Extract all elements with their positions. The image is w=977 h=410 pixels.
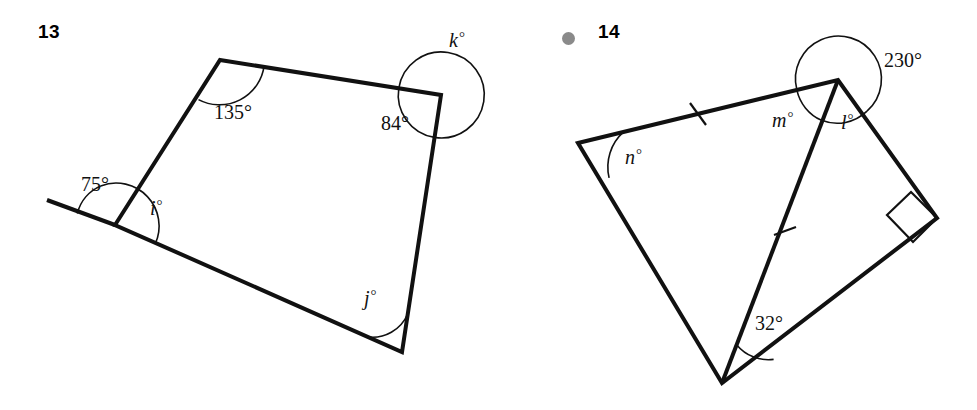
angle-label-84: 84° (381, 113, 409, 133)
angle-label-j: j° (364, 288, 377, 308)
degree-symbol-j: ° (370, 287, 377, 303)
quadrilateral-outline (578, 80, 937, 383)
angle-arc-n (608, 132, 624, 178)
angle-arc-230-reflex (795, 36, 881, 111)
angle-label-k-variable: k (449, 29, 458, 51)
angle-arc-135 (199, 66, 265, 105)
angle-label-75: 75° (81, 174, 109, 194)
right-angle-marker (887, 192, 937, 242)
figure-14: 14 230° 32° n° (500, 0, 977, 410)
worksheet-page: 13 135° 84° 75° k° j° i° (0, 0, 977, 410)
angle-arc-j (367, 314, 408, 338)
angle-label-m-variable: m (772, 109, 786, 131)
angle-label-32: 32° (755, 313, 783, 333)
angle-label-m: m° (772, 110, 793, 130)
tick-mark-cevian (774, 227, 796, 235)
degree-symbol-k: ° (458, 29, 465, 45)
degree-symbol-i: ° (156, 197, 163, 213)
degree-symbol-m: ° (786, 109, 793, 125)
quadrilateral-outline (115, 60, 441, 352)
angle-arc-m (797, 90, 822, 120)
figure-13: 13 135° 84° 75° k° j° i° (0, 0, 500, 410)
angle-label-n-variable: n (625, 146, 635, 168)
angle-label-j-variable: j (364, 287, 370, 309)
angle-label-230: 230° (884, 50, 922, 70)
angle-label-l-variable: l (841, 111, 847, 133)
angle-label-135: 135° (214, 102, 252, 122)
angle-label-k: k° (449, 30, 465, 50)
angle-label-l: l° (841, 112, 854, 132)
degree-symbol-l: ° (847, 111, 854, 127)
angle-label-i-variable: i (150, 197, 156, 219)
figure-13-drawing (0, 0, 500, 410)
angle-label-i: i° (150, 198, 163, 218)
angle-label-n: n° (625, 147, 642, 167)
degree-symbol-n: ° (635, 146, 642, 162)
